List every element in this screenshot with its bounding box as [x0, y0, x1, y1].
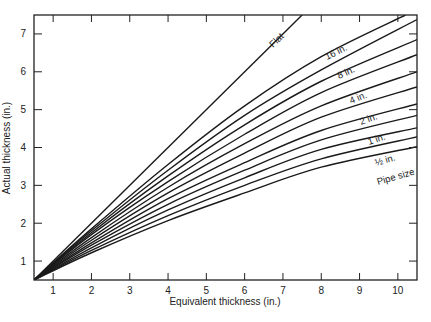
curve-curve-4 [34, 55, 417, 280]
curve-4-in- [34, 72, 417, 280]
label-4in: 4 in. [348, 89, 369, 106]
chart-curves [34, 15, 417, 280]
x-tick-label: 3 [127, 285, 133, 296]
x-tick-label: 6 [242, 285, 248, 296]
x-tick-label: 7 [280, 285, 286, 296]
x-tick-label: 4 [165, 285, 171, 296]
y-tick-label: 1 [20, 256, 26, 267]
curve-1-in- [34, 128, 417, 280]
x-tick-label: 1 [50, 285, 56, 296]
x-axis-title: Equivalent thickness (in.) [169, 296, 280, 307]
x-tick-label: 10 [392, 285, 404, 296]
x-tick-label: 8 [318, 285, 324, 296]
chart: 123456789101234567 Equivalent thickness … [0, 0, 431, 322]
y-axis-title: Actual thickness (in.) [1, 102, 12, 194]
y-tick-label: 5 [20, 104, 26, 115]
label-16in: 16 in. [323, 42, 349, 62]
y-tick-label: 2 [20, 218, 26, 229]
curve-flat [34, 15, 302, 280]
label-pipe-size: Pipe size [376, 166, 416, 187]
x-tick-label: 2 [89, 285, 95, 296]
x-tick-label: 9 [357, 285, 363, 296]
y-tick-label: 3 [20, 180, 26, 191]
curve-8-in- [34, 40, 417, 280]
y-tick-label: 4 [20, 142, 26, 153]
label-2in: 2 in. [358, 110, 379, 126]
y-tick-label: 6 [20, 66, 26, 77]
curve--in- [34, 147, 417, 280]
y-tick-label: 7 [20, 28, 26, 39]
x-tick-label: 5 [204, 285, 210, 296]
